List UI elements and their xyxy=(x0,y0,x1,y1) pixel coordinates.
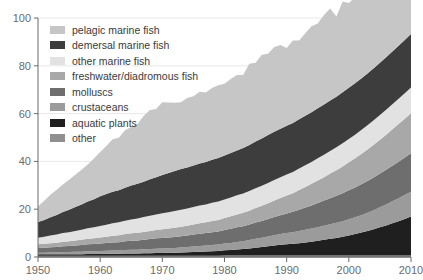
x-tick-label: 2010 xyxy=(399,264,423,276)
legend-item-label: molluscs xyxy=(72,87,113,98)
legend-item-label: freshwater/diadromous fish xyxy=(72,71,198,82)
legend-swatch-icon xyxy=(50,57,65,65)
x-tick-label: 1990 xyxy=(274,264,298,276)
legend-swatch-icon xyxy=(50,119,65,127)
x-tick-label: 1980 xyxy=(212,264,236,276)
legend-item-label: other marine fish xyxy=(72,56,150,67)
legend-swatch-icon xyxy=(50,88,65,96)
y-tick-label: 60 xyxy=(19,108,31,120)
legend-item-label: pelagic marine fish xyxy=(72,25,160,36)
x-tick-label: 1970 xyxy=(150,264,174,276)
chart-container: 0204060801001950196019701980199020002010… xyxy=(0,0,423,280)
y-tick-label: 20 xyxy=(19,203,31,215)
legend-item[interactable]: other xyxy=(50,131,230,147)
legend-item-label: crustaceans xyxy=(72,102,129,113)
legend-item-label: demersal marine fish xyxy=(72,40,169,51)
y-tick-label: 0 xyxy=(25,251,31,263)
legend-item[interactable]: molluscs xyxy=(50,84,230,100)
x-tick-label: 1950 xyxy=(26,264,50,276)
y-tick-label: 100 xyxy=(13,12,31,24)
y-tick-label: 80 xyxy=(19,60,31,72)
legend-item-label: aquatic plants xyxy=(72,118,137,129)
legend-swatch-icon xyxy=(50,41,65,49)
legend-item[interactable]: other marine fish xyxy=(50,53,230,69)
legend-item[interactable]: pelagic marine fish xyxy=(50,22,230,38)
legend-item[interactable]: freshwater/diadromous fish xyxy=(50,69,230,85)
y-tick-label: 40 xyxy=(19,155,31,167)
legend-item[interactable]: aquatic plants xyxy=(50,115,230,131)
legend-item[interactable]: demersal marine fish xyxy=(50,38,230,54)
legend-swatch-icon xyxy=(50,134,65,142)
legend-swatch-icon xyxy=(50,26,65,34)
legend-swatch-icon xyxy=(50,103,65,111)
legend-swatch-icon xyxy=(50,72,65,80)
x-tick-label: 2000 xyxy=(337,264,361,276)
legend-item[interactable]: crustaceans xyxy=(50,100,230,116)
chart-legend: pelagic marine fishdemersal marine fisho… xyxy=(50,22,230,146)
legend-item-label: other xyxy=(72,133,96,144)
x-tick-label: 1960 xyxy=(88,264,112,276)
